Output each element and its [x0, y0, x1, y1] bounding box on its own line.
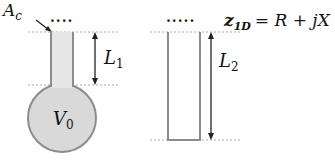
length-arrow-l2-bottom: [208, 133, 214, 140]
diagram-canvas: .... Ac L1 V0 ..... L2: [0, 0, 335, 163]
length-arrow-l2-top: [208, 32, 214, 39]
length-arrow-l1-top: [92, 32, 98, 39]
length-arrow-l1-bottom: [92, 78, 98, 85]
opening-dots-left: ....: [50, 9, 74, 25]
area-label: Ac: [1, 0, 22, 23]
neck-tube: [51, 32, 73, 88]
impedance-equation: z1D= R + jX: [223, 10, 331, 33]
opening-dots-right: .....: [166, 9, 195, 25]
length-label-l2: L2: [218, 50, 239, 74]
tube-walls: [168, 32, 200, 140]
closed-tube: ..... L2 z1D= R + jX: [150, 9, 331, 140]
helmholtz-resonator: .... Ac L1 V0: [1, 0, 124, 152]
area-arrow-head: [45, 26, 52, 32]
length-label-l1: L1: [103, 47, 124, 71]
